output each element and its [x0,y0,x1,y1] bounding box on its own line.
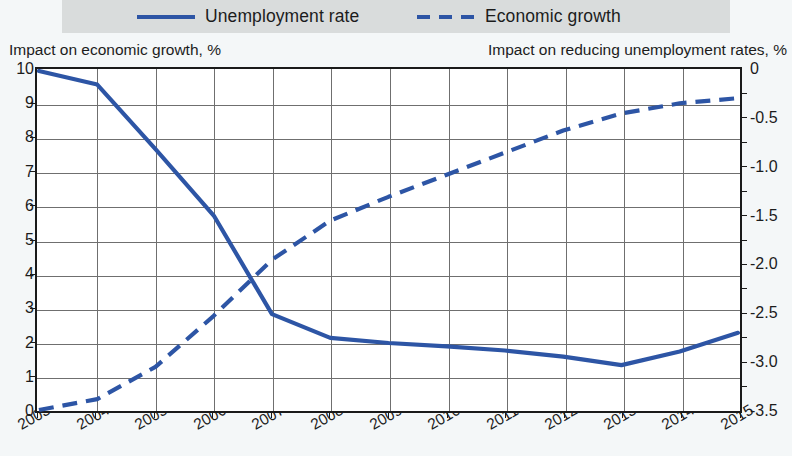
right-axis-tick-label: -1.0 [750,159,778,175]
right-axis-tick-label: -2.5 [750,305,778,321]
legend-item-unemployment-rate: Unemployment rate [137,5,359,29]
legend-label-economic-growth: Economic growth [485,8,621,26]
legend-item-economic-growth: Economic growth [417,5,621,29]
solid-line-swatch-icon [137,15,195,19]
right-axis-title: Impact on reducing unemployment rates, % [488,42,787,58]
dashed-line-swatch-icon [417,15,475,19]
left-axis-tick-label: 10 [16,61,34,77]
chart-figure: Unemployment rate Economic growth Impact… [0,0,792,456]
legend-label-unemployment-rate: Unemployment rate [205,8,359,26]
series-layer [37,69,740,413]
series-line-unemployment-rate [39,71,738,365]
right-axis-tick-label: -0.5 [750,110,778,126]
chart-legend: Unemployment rate Economic growth [62,0,730,33]
right-axis-tick-label: -2.0 [750,256,778,272]
left-axis-title: Impact on economic growth, % [9,42,221,58]
right-axis-tick-label: -1.5 [750,208,778,224]
plot-area [35,67,742,413]
right-axis-tick-label: 0 [750,61,759,77]
right-axis-tick-label: -3.0 [750,354,778,370]
